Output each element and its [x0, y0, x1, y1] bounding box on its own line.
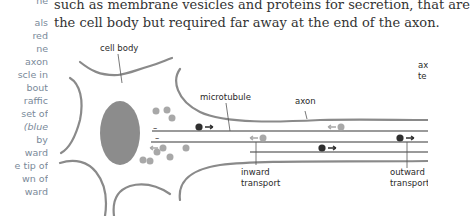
minus-end-label: – — [155, 133, 159, 143]
cell-body-label: cell body — [100, 43, 138, 53]
outward-vesicle — [195, 123, 213, 130]
minus-end-label: – — [153, 123, 157, 133]
microtubule-label: microtubule — [200, 92, 251, 102]
inward-vesicle — [250, 135, 267, 142]
inward-transport-label: inward — [241, 167, 270, 177]
outward-transport-label: outward — [390, 167, 425, 177]
nucleus — [100, 101, 140, 165]
outward-vesicle — [318, 144, 336, 151]
microtubules — [151, 131, 428, 152]
outward-transport-label: transport — [390, 178, 428, 188]
inward-vesicle — [328, 124, 345, 131]
inward-transport-label: transport — [241, 178, 281, 188]
axon-terminal-label: te — [418, 71, 427, 81]
vesicles-cell-body — [140, 107, 190, 165]
axon-label: axon — [295, 96, 316, 106]
axon-terminal-label: ax — [418, 60, 428, 70]
outward-vesicle — [396, 134, 414, 141]
